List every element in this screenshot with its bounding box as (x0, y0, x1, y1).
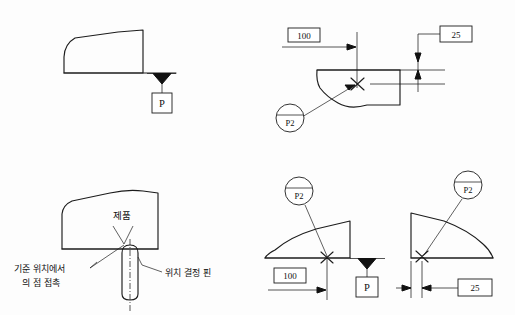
dimension-label-25: 25 (452, 30, 462, 40)
dimension-label-25-br: 25 (471, 283, 481, 293)
sheet-background (0, 0, 515, 315)
datum-balloon-p2-top-right: P2 (276, 104, 304, 132)
datum-box-p-label: P (159, 98, 165, 109)
datum-balloon-label-tr: P2 (286, 118, 295, 128)
dimension-label-100-br: 100 (283, 271, 297, 281)
diagram-sheet: P 100 25 (0, 0, 515, 315)
datum-balloon-label-br-left: P2 (295, 191, 304, 201)
datum-balloon-p2-br-right: P2 (454, 171, 482, 199)
engineering-diagram: P 100 25 (0, 0, 515, 315)
label-locating-pin-text: 위치 결정 핀 (165, 267, 211, 278)
label-product: 제품 (113, 210, 131, 221)
label-datum-contact-line1: 기준 위치에서 (14, 263, 65, 274)
datum-balloon-p2-br-left: P2 (285, 177, 313, 205)
label-datum-contact-line2: 의 점 접촉 (22, 277, 60, 288)
datum-box-p-label-br: P (364, 282, 370, 293)
datum-balloon-label-br-right: P2 (464, 185, 473, 195)
dimension-label-100: 100 (297, 31, 311, 41)
